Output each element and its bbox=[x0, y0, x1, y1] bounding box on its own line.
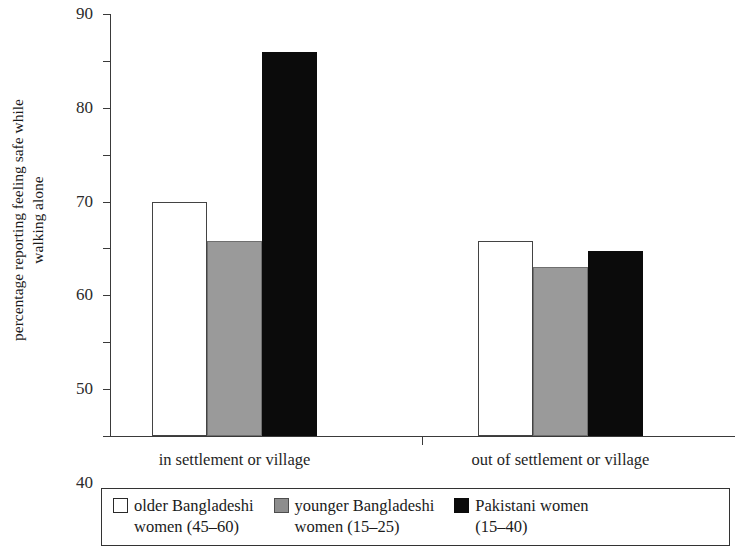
y-axis-tick: 40 bbox=[103, 248, 110, 249]
y-axis-title: percentage reporting feeling safe while … bbox=[0, 0, 56, 440]
x-axis-category-label: out of settlement or village bbox=[472, 450, 650, 470]
bar bbox=[152, 202, 207, 436]
legend-swatch-white bbox=[113, 498, 128, 513]
bar bbox=[478, 241, 533, 436]
y-axis-tick-label: 80 bbox=[76, 98, 93, 118]
x-axis-midpoint-tick bbox=[422, 436, 423, 445]
legend-label-line-1: Pakistani women bbox=[475, 495, 588, 516]
y-axis-tick: 60 bbox=[103, 155, 110, 156]
y-axis-tick-label: 70 bbox=[76, 192, 93, 212]
legend-swatch-black bbox=[454, 498, 469, 513]
legend-label: Pakistani women(15–40) bbox=[475, 495, 588, 537]
y-axis-tick: 10 bbox=[103, 389, 110, 390]
y-axis-tick: 90 bbox=[103, 14, 110, 15]
legend-label: younger Bangladeshiwomen (15–25) bbox=[295, 495, 435, 537]
y-axis-tick-label: 90 bbox=[76, 4, 93, 24]
y-axis-tick: 20 bbox=[103, 342, 110, 343]
bar-chart-figure: percentage reporting feeling safe while … bbox=[0, 0, 746, 552]
legend-label-line-2: women (45–60) bbox=[134, 516, 254, 537]
bar bbox=[207, 241, 262, 436]
y-axis-line bbox=[110, 14, 111, 437]
legend-label-line-2: women (15–25) bbox=[295, 516, 435, 537]
y-axis-tick: 50 bbox=[103, 202, 110, 203]
bar bbox=[588, 251, 643, 436]
legend-label-line-2: (15–40) bbox=[475, 516, 588, 537]
y-axis-tick: 70 bbox=[103, 108, 110, 109]
legend-swatch-gray bbox=[274, 498, 289, 513]
y-axis-tick-label: 60 bbox=[76, 285, 93, 305]
x-axis-category-label: in settlement or village bbox=[159, 450, 311, 470]
bar bbox=[262, 52, 317, 436]
bar bbox=[533, 267, 588, 436]
plot-area: 0102030405060708090 bbox=[110, 14, 735, 436]
legend-label-line-1: younger Bangladeshi bbox=[295, 495, 435, 516]
y-axis-tick-label: 40 bbox=[76, 473, 93, 493]
legend-label-line-1: older Bangladeshi bbox=[134, 495, 254, 516]
y-axis-tick: 30 bbox=[103, 295, 110, 296]
y-axis-title-line-1: percentage reporting feeling safe while bbox=[8, 99, 28, 341]
legend-label: older Bangladeshiwomen (45–60) bbox=[134, 495, 254, 537]
y-axis-tick: 0 bbox=[103, 436, 110, 437]
y-axis-tick-label: 50 bbox=[76, 379, 93, 399]
legend-item[interactable]: Pakistani women(15–40) bbox=[454, 495, 588, 537]
y-axis-title-line-2: walking alone bbox=[28, 99, 48, 341]
y-axis-tick: 80 bbox=[103, 61, 110, 62]
legend-item[interactable]: older Bangladeshiwomen (45–60) bbox=[113, 495, 254, 537]
legend-item[interactable]: younger Bangladeshiwomen (15–25) bbox=[274, 495, 435, 537]
chart-legend: older Bangladeshiwomen (45–60)younger Ba… bbox=[101, 488, 730, 546]
